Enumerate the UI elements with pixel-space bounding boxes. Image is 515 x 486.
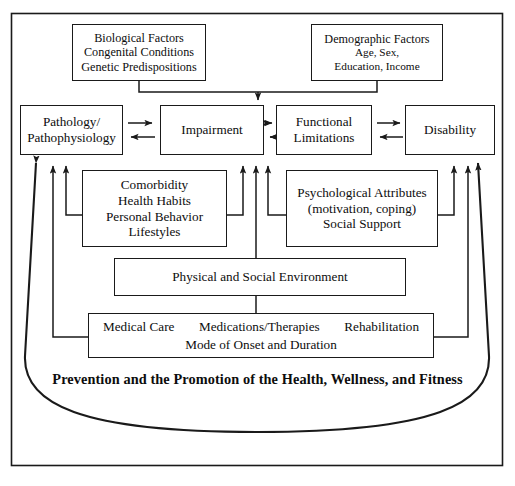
demographic-line-1: Demographic Factors [324,32,429,46]
psychological-line-1: Psychological Attributes [297,185,426,201]
comorbidity-line-1: Comorbidity [121,177,188,193]
biological-line-1: Biological Factors [94,31,184,45]
box-disability: Disability [405,105,495,155]
comorbidity-line-2: Health Habits [118,193,191,209]
environment-line-1: Physical and Social Environment [172,269,347,285]
biological-line-2: Congenital Conditions [84,45,194,59]
medical-item-rehabilitation: Rehabilitation [344,318,419,335]
box-psychological-attributes: Psychological Attributes (motivation, co… [286,170,438,247]
box-comorbidity: Comorbidity Health Habits Personal Behav… [82,170,227,247]
biological-line-3: Genetic Predispositions [81,60,196,74]
medical-item-medical-care: Medical Care [103,318,174,335]
demographic-line-2: Age, Sex, [355,46,399,59]
box-medical-care: Medical Care Medications/Therapies Rehab… [88,313,434,358]
psychological-line-3: Social Support [323,216,401,232]
top-factors-connector [139,81,377,100]
impairment-line-1: Impairment [181,122,243,138]
medical-line-2: Mode of Onset and Duration [185,336,337,353]
functional-line-1: Functional [296,114,352,130]
box-physical-social-environment: Physical and Social Environment [114,258,406,296]
disability-line-1: Disability [424,122,476,138]
disablement-process-diagram: Biological Factors Congenital Conditions… [0,0,515,486]
functional-line-2: Limitations [294,130,355,146]
box-impairment: Impairment [160,105,264,155]
pathology-line-1: Pathology/ [43,114,100,130]
medical-care-items: Medical Care Medications/Therapies Rehab… [89,318,433,335]
medical-item-medications: Medications/Therapies [199,318,320,335]
box-functional-limitations: Functional Limitations [276,105,372,155]
pathology-line-2: Pathophysiology [27,130,116,146]
psychological-line-2: (motivation, coping) [308,201,416,217]
box-pathology: Pathology/ Pathophysiology [20,105,123,155]
comorbidity-line-4: Lifestyles [128,224,180,240]
prevention-caption: Prevention and the Promotion of the Heal… [0,371,515,388]
box-biological-factors: Biological Factors Congenital Conditions… [72,24,206,81]
comorbidity-line-3: Personal Behavior [106,209,203,225]
demographic-line-3: Education, Income [334,60,419,73]
box-demographic-factors: Demographic Factors Age, Sex, Education,… [311,24,443,81]
